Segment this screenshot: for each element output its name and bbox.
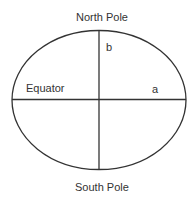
equator-label: Equator <box>26 82 65 94</box>
semi-minor-label: b <box>106 41 112 53</box>
north-pole-label: North Pole <box>76 11 128 23</box>
south-pole-label: South Pole <box>75 181 129 193</box>
semi-major-label: a <box>152 83 158 95</box>
ellipse-diagram <box>0 0 194 201</box>
